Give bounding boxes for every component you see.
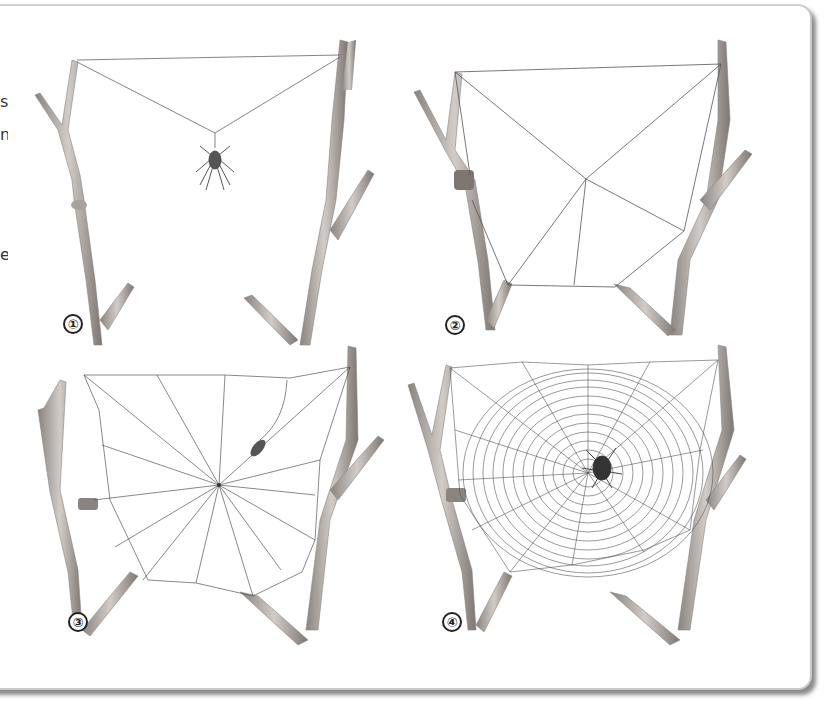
panel-4-finished-web: ④ xyxy=(400,340,800,660)
step-label-4: ④ xyxy=(442,612,462,632)
radial-spokes xyxy=(84,367,350,596)
panel-3-radii: ③ xyxy=(0,340,400,660)
step-label-2: ② xyxy=(445,315,465,335)
left-branch xyxy=(35,60,102,345)
step-label-3: ③ xyxy=(68,612,88,632)
panel-2-illustration xyxy=(400,0,800,350)
step-label-1: ① xyxy=(63,314,83,334)
panel-1-bridge-line: ① xyxy=(0,0,400,350)
panel-1-illustration xyxy=(0,0,400,350)
panel-2-frame-threads: ② xyxy=(400,0,800,350)
panel-3-illustration xyxy=(0,340,400,660)
panel-4-illustration xyxy=(400,340,800,660)
spider-icon xyxy=(248,437,269,459)
spider-icon xyxy=(196,146,234,190)
